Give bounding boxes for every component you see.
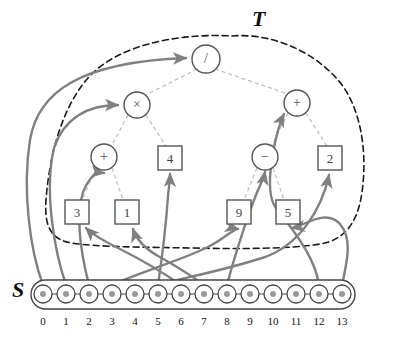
sequence-index-5: 5 <box>147 315 169 327</box>
sequence-node-0 <box>34 285 52 303</box>
sequence-index-6: 6 <box>170 315 192 327</box>
tree-edge-mul-four <box>146 115 166 146</box>
tree-edge-add_l-one <box>112 168 123 200</box>
sequence-index-10: 10 <box>262 315 284 327</box>
mapping-arrow-9-sub <box>227 172 265 285</box>
sequence-node-7 <box>195 285 213 303</box>
sequence-index-7: 7 <box>193 315 215 327</box>
mapping-arrow-3-nine <box>112 229 238 285</box>
tree-node-label-mul: × <box>124 98 150 112</box>
sequence-index-2: 2 <box>78 315 100 327</box>
tree-node-label-nine: 9 <box>226 206 252 219</box>
tree-node-label-add-right: + <box>284 96 310 110</box>
tree-node-label-root: / <box>193 52 219 66</box>
sequence-node-4 <box>126 285 144 303</box>
tree-node-label-four: 4 <box>157 152 183 165</box>
sequence-index-8: 8 <box>216 315 238 327</box>
tree-edge-add_r-two <box>306 113 327 146</box>
sequence-index-0: 0 <box>32 315 54 327</box>
sequence-node-3 <box>103 285 121 303</box>
sequence-node-1 <box>57 285 75 303</box>
tree-edge-root-mul <box>146 69 197 95</box>
tree-label-T: T <box>252 8 265 30</box>
sequence-index-11: 11 <box>285 315 307 327</box>
tree-node-label-add-left: + <box>91 150 117 164</box>
sequence-label-S: S <box>12 279 24 301</box>
tree-node-label-two: 2 <box>317 152 343 165</box>
sequence-node-6 <box>172 285 190 303</box>
sequence-node-10 <box>264 285 282 303</box>
tree-edge-root-add_r <box>215 69 288 94</box>
sequence-index-12: 12 <box>308 315 330 327</box>
sequence-node-13 <box>333 285 351 303</box>
sequence-node-12 <box>310 285 328 303</box>
mapping-arrow-8-four <box>158 174 170 285</box>
tree-node-label-one: 1 <box>114 206 140 219</box>
sequence-node-5 <box>149 285 167 303</box>
tree-edge-sub-five <box>273 168 284 200</box>
tree-edge-add_l-three <box>82 168 96 200</box>
tree-node-label-five: 5 <box>275 206 301 219</box>
figure-canvas: T S / × + + 4 − 2 3 1 9 5 0 1 2 3 4 5 6 … <box>0 0 401 341</box>
sequence-node-2 <box>80 285 98 303</box>
tree-node-label-sub: − <box>252 150 278 164</box>
sequence-index-9: 9 <box>239 315 261 327</box>
sequence-node-8 <box>218 285 236 303</box>
sequence-index-3: 3 <box>101 315 123 327</box>
sequence-node-11 <box>287 285 305 303</box>
sequence-node-9 <box>241 285 259 303</box>
tree-edges <box>82 69 327 200</box>
sequence-index-13: 13 <box>331 315 353 327</box>
mapping-arrow-2-add_l <box>79 173 104 285</box>
tree-nodes <box>65 45 342 224</box>
mapping-arrow-13-five <box>292 217 348 285</box>
sequence-index-1: 1 <box>55 315 77 327</box>
tree-node-label-three: 3 <box>64 206 90 219</box>
tree-edge-mul-add_l <box>112 115 128 145</box>
sequence-index-4: 4 <box>124 315 146 327</box>
